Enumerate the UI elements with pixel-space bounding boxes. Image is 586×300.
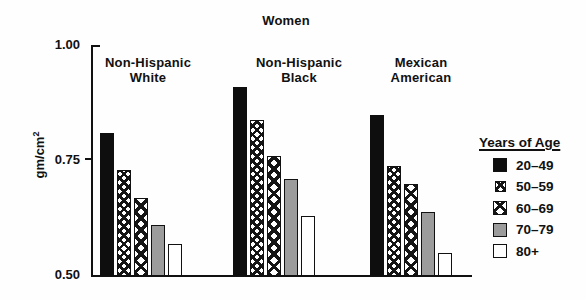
chart-title: Women [236,13,336,28]
bar-non-hispanic-black-50-59 [250,120,264,276]
bar-non-hispanic-white-80 [168,244,182,276]
legend-swatch-20-49-icon [493,158,507,172]
legend-item-70-79: 70–79 [493,223,560,237]
y-axis-unit-exponent: 2 [31,132,41,137]
legend-label-50-59: 50–59 [516,179,554,194]
legend-label-60-69: 60–69 [516,201,554,216]
bar-non-hispanic-black-70-79 [284,179,298,276]
bar-non-hispanic-white-60-69 [134,198,148,276]
y-tick-label-0-75: 0.75 [38,152,86,168]
bar-mexican-american-20-49 [370,115,384,276]
bone-density-bar-chart: Women gm/cm2 1.000.750.50 Non-Hispanic W… [0,0,586,300]
legend-label-80: 80+ [516,244,539,259]
bar-mexican-american-70-79 [421,212,435,276]
bar-non-hispanic-white-20-49 [100,133,114,276]
group-label-mexican-american: Mexican American [351,55,491,85]
legend: Years of Age 20–4950–5960–6970–7980+ [479,135,560,258]
legend-label-20-49: 20–49 [516,158,554,173]
bar-non-hispanic-white-70-79 [151,225,165,276]
legend-title: Years of Age [479,135,560,150]
legend-item-50-59: 50–59 [493,180,560,194]
y-axis-top-tick [92,45,100,47]
y-tick-label-1-00: 1.00 [38,37,86,53]
group-label-non-hispanic-white: Non-Hispanic White [78,55,218,85]
bar-mexican-american-80 [438,253,452,276]
group-label-non-hispanic-black: Non-Hispanic Black [229,55,369,85]
legend-item-80: 80+ [493,244,560,258]
y-tick-label-0-50: 0.50 [38,267,86,283]
bar-non-hispanic-black-20-49 [233,87,247,276]
legend-swatch-50-59-icon [495,181,506,192]
bar-non-hispanic-black-80 [301,216,315,276]
bar-non-hispanic-black-60-69 [267,156,281,276]
bar-mexican-american-60-69 [404,184,418,276]
legend-item-20-49: 20–49 [493,158,560,172]
legend-label-70-79: 70–79 [516,222,554,237]
legend-swatch-80-icon [493,244,507,258]
bar-mexican-american-50-59 [387,166,401,276]
bar-non-hispanic-white-50-59 [117,170,131,276]
legend-items: 20–4950–5960–6970–7980+ [479,158,560,258]
legend-item-60-69: 60–69 [493,201,560,215]
legend-swatch-60-69-icon [493,201,507,215]
legend-swatch-70-79-icon [493,223,507,237]
